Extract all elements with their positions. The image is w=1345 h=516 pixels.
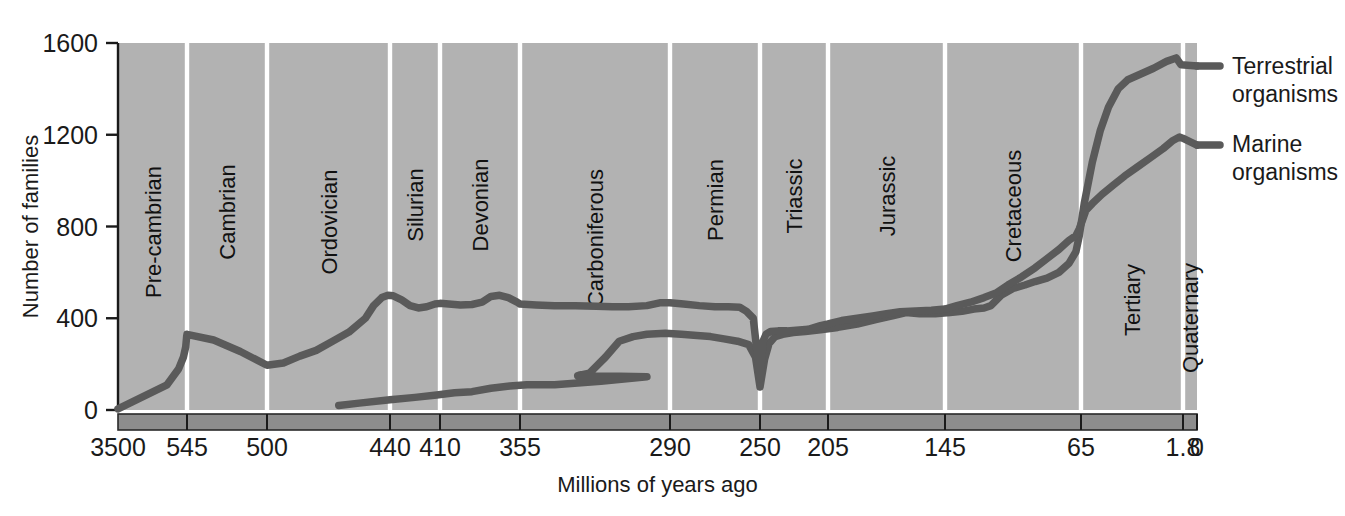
x-tick-label: 3500 <box>90 433 146 461</box>
period-divider <box>518 43 522 410</box>
period-divider <box>668 43 672 410</box>
plot-background <box>118 43 1197 410</box>
x-tick-label: 355 <box>499 433 541 461</box>
period-divider <box>265 43 269 410</box>
legend: TerrestrialorganismsMarineorganisms <box>1197 53 1338 185</box>
x-axis-title: Millions of years ago <box>557 472 758 497</box>
x-tick-label: 65 <box>1067 433 1095 461</box>
period-label-silurian: Silurian <box>403 168 428 241</box>
y-axis: 040080012001600 <box>42 29 118 424</box>
y-axis-title: Number of families <box>18 135 43 318</box>
x-tick-label: 500 <box>246 433 288 461</box>
legend-terrestrial-label-line2: organisms <box>1232 81 1338 107</box>
period-label-pre-cambrian: Pre-cambrian <box>141 166 166 298</box>
x-tick-label: 545 <box>166 433 208 461</box>
period-divider <box>943 43 947 410</box>
x-tick-label: 410 <box>419 433 461 461</box>
period-label-carboniferous: Carboniferous <box>583 169 608 307</box>
period-label-tertiary: Tertiary <box>1120 264 1145 336</box>
period-label-permian: Permian <box>703 159 728 241</box>
legend-terrestrial-label-line1: Terrestrial <box>1232 53 1333 79</box>
y-tick-label: 400 <box>56 304 98 332</box>
x-tick-label: 145 <box>924 433 966 461</box>
period-divider <box>438 43 442 410</box>
y-tick-label: 1600 <box>42 29 98 57</box>
period-label-quaternary: Quaternary <box>1178 263 1203 373</box>
x-tick-label: 250 <box>739 433 781 461</box>
x-axis-bar <box>118 414 1197 430</box>
y-tick-label: 800 <box>56 213 98 241</box>
x-tick-label: 0 <box>1190 433 1204 461</box>
x-tick-label: 290 <box>649 433 691 461</box>
y-tick-label: 0 <box>84 396 98 424</box>
legend-marine-label-line2: organisms <box>1232 159 1338 185</box>
chart-figure: Pre-cambrianCambrianOrdovicianSilurianDe… <box>0 0 1345 516</box>
x-tick-label: 440 <box>369 433 411 461</box>
period-label-ordovician: Ordovician <box>317 169 342 274</box>
x-axis-bar-rect <box>118 414 1197 430</box>
period-label-jurassic: Jurassic <box>875 156 900 237</box>
period-label-devonian: Devonian <box>468 159 493 252</box>
period-divider <box>388 43 392 410</box>
x-tick-label: 205 <box>807 433 849 461</box>
period-label-cambrian: Cambrian <box>215 164 240 259</box>
x-tick-labels: 3500545500440410355290250205145651.80 <box>90 433 1204 461</box>
legend-marine-label-line1: Marine <box>1232 131 1302 157</box>
period-label-triassic: Triassic <box>782 159 807 234</box>
y-tick-label: 1200 <box>42 121 98 149</box>
period-label-cretaceous: Cretaceous <box>1001 150 1026 263</box>
period-divider <box>826 43 830 410</box>
